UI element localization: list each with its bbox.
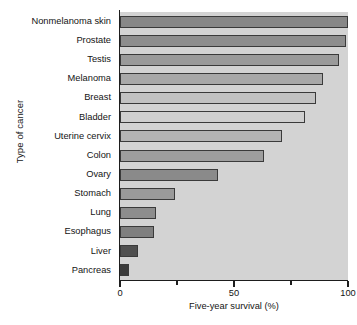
bar-row — [120, 69, 348, 88]
y-axis-tick-label-row: Pancreas — [0, 261, 115, 280]
x-axis-title: Five-year survival (%) — [120, 301, 348, 311]
y-axis-line — [119, 10, 120, 282]
bar[interactable] — [120, 35, 346, 47]
y-axis-tick-label-row: Nonmelanoma skin — [0, 12, 115, 31]
y-axis-tick-label-row: Ovary — [0, 165, 115, 184]
bar[interactable] — [120, 73, 323, 85]
x-axis-tick-label: 0 — [117, 288, 122, 298]
bar-row — [120, 203, 348, 222]
x-axis-minor-tick — [176, 281, 177, 285]
x-axis-tick — [233, 281, 234, 287]
y-axis-tick-label: Colon — [87, 151, 111, 160]
y-axis-tick-label-row: Stomach — [0, 184, 115, 203]
bar[interactable] — [120, 92, 316, 104]
bar[interactable] — [120, 54, 339, 66]
y-axis-tick-label-row: Lung — [0, 203, 115, 222]
bar[interactable] — [120, 245, 138, 257]
y-axis-tick-labels: Nonmelanoma skinProstateTestisMelanomaBr… — [0, 12, 115, 280]
y-axis-tick-label: Bladder — [79, 113, 111, 122]
x-axis-minor-tick — [290, 281, 291, 285]
bar-row — [120, 242, 348, 261]
bar-row — [120, 89, 348, 108]
y-axis-tick-label: Stomach — [74, 189, 111, 198]
bar[interactable] — [120, 16, 348, 28]
y-axis-tick-label-row: Bladder — [0, 108, 115, 127]
y-axis-tick-label: Nonmelanoma skin — [31, 17, 111, 26]
figure: Type of cancer Nonmelanoma skinProstateT… — [0, 0, 357, 325]
plot-area — [120, 12, 348, 280]
bar-row — [120, 261, 348, 280]
y-axis-tick-label-row: Uterine cervix — [0, 127, 115, 146]
bar[interactable] — [120, 226, 154, 238]
y-axis-tick-label-row: Colon — [0, 146, 115, 165]
bar-row — [120, 184, 348, 203]
x-axis-tick-label: 50 — [229, 288, 239, 298]
y-axis-tick-label-row: Prostate — [0, 31, 115, 50]
bars-container — [120, 12, 348, 280]
y-axis-tick-label: Prostate — [76, 36, 111, 45]
bar-row — [120, 50, 348, 69]
y-axis-tick-label-row: Melanoma — [0, 69, 115, 88]
bar-row — [120, 108, 348, 127]
y-axis-tick-label-row: Testis — [0, 50, 115, 69]
x-axis-tick-label: 100 — [340, 288, 356, 298]
y-axis-tick-label: Uterine cervix — [54, 132, 111, 141]
bar[interactable] — [120, 207, 156, 219]
bar-row — [120, 31, 348, 50]
y-axis-tick-label-row: Breast — [0, 89, 115, 108]
y-axis-tick-label: Ovary — [86, 170, 111, 179]
bar[interactable] — [120, 150, 264, 162]
y-axis-tick-label-row: Liver — [0, 242, 115, 261]
bar-row — [120, 127, 348, 146]
bar[interactable] — [120, 130, 282, 142]
bar-row — [120, 223, 348, 242]
y-axis-tick-label: Esophagus — [64, 227, 111, 236]
bar[interactable] — [120, 188, 175, 200]
y-axis-tick-label: Liver — [91, 247, 111, 256]
x-axis-tick — [119, 281, 120, 287]
bar-row — [120, 12, 348, 31]
y-axis-tick-label-row: Esophagus — [0, 223, 115, 242]
y-axis-tick-label: Testis — [87, 55, 111, 64]
bar-row — [120, 146, 348, 165]
x-axis-tick — [347, 281, 348, 287]
bar-row — [120, 165, 348, 184]
y-axis-tick-label: Pancreas — [72, 266, 111, 275]
bar[interactable] — [120, 169, 218, 181]
y-axis-tick-label: Lung — [90, 208, 111, 217]
bar[interactable] — [120, 111, 305, 123]
y-axis-tick-label: Melanoma — [68, 74, 111, 83]
y-axis-tick-label: Breast — [84, 93, 111, 102]
bar[interactable] — [120, 264, 129, 276]
